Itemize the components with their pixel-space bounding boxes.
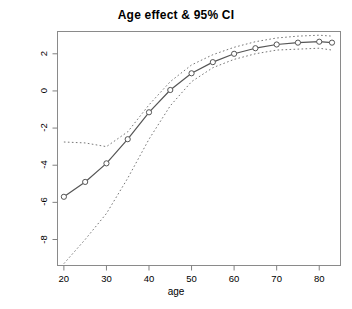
y-tick-label: -6 xyxy=(37,195,48,209)
lower-confidence-band xyxy=(64,48,332,263)
chart-plot-area xyxy=(0,0,352,309)
y-tick-label: -8 xyxy=(37,232,48,246)
x-tick-label: 70 xyxy=(271,273,282,284)
data-point-marker xyxy=(317,39,322,44)
upper-ci-path xyxy=(64,35,332,146)
age-effect-line xyxy=(64,42,332,197)
y-tick-label: -2 xyxy=(37,121,48,135)
data-point-marker xyxy=(83,179,88,184)
plot-border xyxy=(58,32,341,266)
x-tick-label: 60 xyxy=(229,273,240,284)
x-axis-label: age xyxy=(0,286,352,297)
lower-ci-path xyxy=(64,48,332,263)
data-point-marker xyxy=(232,51,237,56)
y-tick-label: 2 xyxy=(37,46,48,60)
upper-confidence-band xyxy=(64,35,332,146)
x-tick-label: 40 xyxy=(144,273,155,284)
x-tick-label: 30 xyxy=(101,273,112,284)
data-point-marker xyxy=(329,40,334,45)
data-point-marker xyxy=(104,161,109,166)
x-tick-label: 20 xyxy=(59,273,70,284)
data-point-marker xyxy=(210,60,215,65)
x-tick-label: 80 xyxy=(314,273,325,284)
data-point-marker xyxy=(253,46,258,51)
data-point-marker xyxy=(168,87,173,92)
data-point-marker xyxy=(295,40,300,45)
y-tick-label: 0 xyxy=(37,83,48,97)
data-point-marker xyxy=(61,194,66,199)
data-point-marker xyxy=(125,137,130,142)
data-point-marker xyxy=(146,110,151,115)
y-tick-label: -4 xyxy=(37,158,48,172)
y-axis-ticks xyxy=(53,54,58,240)
plot-frame xyxy=(58,32,341,266)
chart-container: Age effect & 95% CI 20304050607080 20-2-… xyxy=(0,0,352,309)
data-point-markers xyxy=(61,39,334,199)
effect-line-path xyxy=(64,42,332,197)
data-point-marker xyxy=(274,42,279,47)
data-point-marker xyxy=(189,71,194,76)
x-axis-ticks xyxy=(64,266,319,271)
x-tick-label: 50 xyxy=(186,273,197,284)
